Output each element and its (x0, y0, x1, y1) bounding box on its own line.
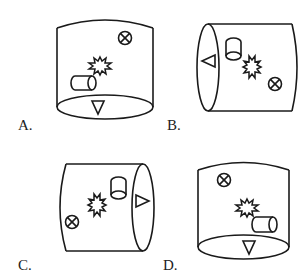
circled-x-icon (218, 174, 231, 187)
small-cylinder-icon (111, 177, 126, 199)
cylinder-bottom-face (57, 95, 153, 119)
starburst-icon (236, 199, 258, 217)
circled-x-icon (269, 78, 282, 91)
cylinder-right-rim (292, 24, 297, 111)
cylinder-bottom-face (198, 235, 289, 259)
small-cylinder-icon (71, 76, 96, 90)
option-b-label: B. (167, 118, 181, 133)
cylinder-left-rim (60, 164, 66, 251)
option-b-cylinder[interactable] (197, 24, 297, 111)
option-a-cylinder[interactable] (57, 20, 153, 119)
triangle-right-icon (136, 195, 149, 207)
cylinder-top-rim (57, 20, 153, 28)
figure-canvas (0, 0, 308, 278)
small-cylinder-icon (252, 217, 277, 232)
triangle-left-icon (202, 55, 215, 67)
small-cylinder-icon (226, 38, 241, 60)
circled-x-icon (66, 216, 79, 229)
starburst-icon (89, 57, 111, 75)
cylinder-options-figure: A. B. C. D. (0, 0, 308, 278)
option-a-label: A. (18, 118, 33, 133)
triangle-down-icon (92, 101, 104, 114)
option-d-label: D. (163, 258, 178, 273)
starburst-icon (243, 56, 261, 78)
triangle-down-icon (243, 241, 255, 254)
option-c-cylinder[interactable] (60, 164, 154, 251)
option-c-label: C. (18, 258, 32, 273)
cylinder-top-rim (198, 163, 289, 171)
circled-x-icon (119, 32, 132, 45)
option-d-cylinder[interactable] (198, 163, 289, 260)
starburst-icon (88, 194, 106, 216)
